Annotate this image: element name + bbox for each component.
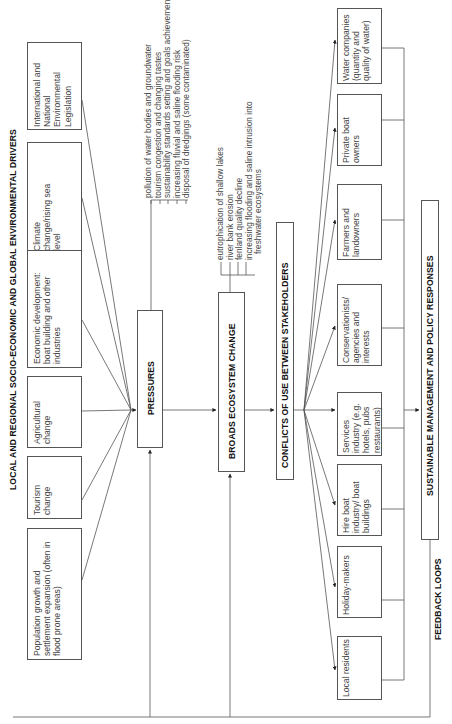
driver-legislation-arrow [82, 100, 131, 410]
stakeholder-label: Holiday-makers [341, 547, 351, 615]
stakeholder-water-companies-box: Water companies (quantity and quality of… [337, 8, 382, 84]
stakeholder-label: Farmers and landowners [341, 185, 361, 257]
driver-climate-arrow [82, 198, 131, 410]
driver-label: Economic development: boat building and … [32, 254, 63, 364]
stakeholder-holiday-makers-box: Holiday-makers [337, 546, 382, 618]
stakeholder-hire-boat-box: Hire boat industry/ boat buildings [337, 464, 382, 536]
stakeholder-local-residents-box: Local residents [337, 636, 382, 700]
stakeholder-label: Water companies (quantity and quality of… [341, 9, 372, 81]
driver-tourism-arrow [82, 410, 131, 500]
driver-label: Population growth and settlement expansi… [32, 530, 63, 656]
driver-climate-box: Climate change/rising sea level [27, 142, 82, 255]
stakeholder-farmers-box: Farmers and landowners [337, 184, 382, 260]
responses-box: SUSTAINABLE MANAGEMENT AND POLICY RESPON… [421, 200, 439, 540]
stakeholder-label: Private boat owners [341, 97, 361, 163]
driver-agricultural-box: Agricultural change [27, 376, 82, 448]
driver-legislation-box: International and National Environmental… [27, 42, 82, 130]
stakeholder-label: Services industry (e.g. hotels, pubs res… [341, 393, 382, 453]
ecosystem-title: BROADS ECOSYSTEM CHANGE [227, 323, 237, 459]
pressure-item: disposal of dredgings (some contaminated… [182, 0, 192, 198]
driver-label: International and National Environmental… [32, 47, 73, 127]
ecosystem-item: freshwater ecosystems [254, 101, 264, 260]
driver-agricultural-arrow [82, 410, 131, 411]
driver-economic-box: Economic development: boat building and … [27, 250, 82, 368]
stakeholder-label: Conservationists/ agencies and interests [341, 285, 372, 363]
driver-label: Tourism change [32, 465, 52, 515]
stakeholder-private-boat-owners-box: Private boat owners [337, 94, 382, 166]
ecosystem-change-box: BROADS ECOSYSTEM CHANGE [218, 292, 245, 472]
stakeholder-label: Hire boat industry/ boat buildings [341, 465, 372, 533]
conflicts-box: CONFLICTS OF USE BETWEEN STAKEHOLDERS [276, 222, 294, 480]
stakeholder-services-industry-box: Services industry (e.g. hotels, pubs res… [337, 392, 382, 456]
stakeholder-conservationists-box: Conservationists/ agencies and interests [337, 284, 382, 366]
responses-title: SUSTAINABLE MANAGEMENT AND POLICY RESPON… [425, 256, 435, 497]
stakeholder-label: Local residents [341, 637, 351, 697]
pressures-list: pollution of water bodies and groundwate… [144, 0, 192, 198]
pressures-box: PRESSURES [137, 310, 163, 448]
driver-population-box: Population growth and settlement expansi… [27, 528, 82, 660]
conflicts-title: CONFLICTS OF USE BETWEEN STAKEHOLDERS [280, 263, 290, 469]
feedback-loops-label: FEEDBACK LOOPS [433, 558, 443, 640]
driver-label: Agricultural change [32, 380, 52, 444]
drivers-heading: LOCAL AND REGIONAL SOCIO-ECONOMIC AND GL… [8, 129, 18, 490]
driver-tourism-box: Tourism change [27, 456, 82, 519]
ecosystem-list: eutrophication of shallow lakes river ba… [216, 101, 264, 260]
driver-population-arrow [82, 410, 131, 580]
pressures-title: PRESSURES [146, 361, 156, 415]
driver-label: Climate change/rising sea level [32, 171, 63, 251]
